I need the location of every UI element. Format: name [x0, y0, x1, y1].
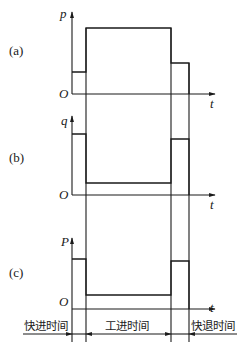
panel-a: p O t (a)	[9, 6, 215, 111]
panel-label-b: (b)	[9, 150, 24, 165]
y-axis-label-a: p	[59, 6, 67, 21]
panel-label-c: (c)	[9, 265, 23, 280]
origin-label-c: O	[59, 294, 69, 309]
phase-dimension: 快进时间 工进时间 快退时间	[23, 319, 237, 334]
panel-b: q O t (b)	[9, 113, 215, 212]
y-axis-label-c: P	[60, 234, 69, 249]
phase-label-rapid-return: 快退时间	[191, 319, 235, 333]
origin-label-a: O	[59, 86, 69, 101]
hydraulic-cycle-diagram: p O t (a) q O t (b) P O t (c) 快进时间 工进时间 …	[0, 0, 244, 353]
origin-label-b: O	[59, 187, 69, 202]
y-axis-label-b: q	[61, 113, 68, 128]
phase-label-work-feed: 工进时间	[105, 319, 149, 333]
panel-label-a: (a)	[9, 43, 23, 58]
x-axis-label-c: t	[210, 300, 214, 315]
phase-label-rapid-advance: 快进时间	[24, 319, 68, 333]
x-axis-label-a: t	[210, 96, 214, 111]
panel-c: P O t (c)	[9, 234, 215, 315]
x-axis-label-b: t	[210, 197, 214, 212]
